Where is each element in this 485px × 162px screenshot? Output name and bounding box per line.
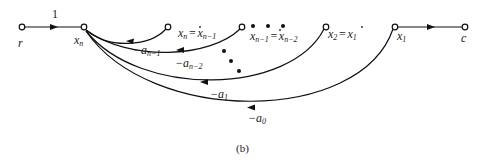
node-label-xn-eq: xn=xn−1	[177, 26, 216, 41]
feedback-branch-an-1	[86, 29, 166, 43]
node-xn1-eq	[239, 24, 245, 30]
gain-label-an-2: −an−2	[175, 56, 203, 71]
node-c	[462, 24, 468, 30]
forward-gain-label: 1	[52, 7, 58, 21]
signal-flow-graph: 1 r xn xn=xn−1 xn−1=xn−2 x2=x1 x1 c −an−…	[0, 0, 485, 162]
node-label-x2-eq: x2=x1	[327, 27, 357, 42]
arrow-icon	[50, 24, 58, 30]
gain-label-a1: −a1	[210, 87, 228, 102]
gain-label-a0: −a0	[248, 111, 266, 126]
figure-caption: (b)	[236, 142, 249, 155]
node-label-c: c	[461, 31, 467, 45]
node-xn	[81, 24, 87, 30]
node-r	[19, 24, 25, 30]
node-label-x1: x1	[396, 29, 406, 44]
gain-label-an-1: −an−1	[133, 43, 161, 58]
node-label-r: r	[18, 36, 23, 50]
node-xn-eq	[165, 24, 171, 30]
arrow-icon	[427, 24, 435, 30]
node-label-xn: xn	[73, 33, 83, 48]
node-label-xn1-eq: xn−1=xn−2	[249, 29, 298, 44]
